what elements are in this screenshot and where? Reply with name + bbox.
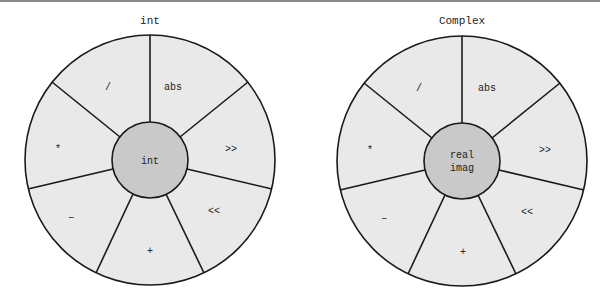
- segment-abs: abs: [164, 82, 182, 93]
- segment-abs: abs: [478, 83, 496, 94]
- segment-multiply: *: [55, 144, 61, 155]
- hub-label-line1: real: [450, 150, 474, 161]
- segment-plus: +: [460, 247, 466, 258]
- segment-minus: −: [381, 214, 387, 225]
- segment-minus: −: [68, 213, 74, 224]
- segment-shift-left: <<: [208, 206, 220, 217]
- hub: [424, 123, 500, 199]
- segment-plus: +: [147, 246, 153, 257]
- wheel-diagrams: abs >> << + − * / int abs >> << + − * / …: [0, 0, 609, 300]
- segment-shift-right: >>: [225, 144, 237, 155]
- hub-label-line2: imag: [450, 163, 474, 174]
- hub-label: int: [141, 156, 159, 167]
- segment-shift-right: >>: [539, 145, 551, 156]
- segment-divide: /: [105, 82, 111, 93]
- segment-shift-left: <<: [521, 207, 533, 218]
- segment-divide: /: [416, 83, 422, 94]
- segment-multiply: *: [367, 145, 373, 156]
